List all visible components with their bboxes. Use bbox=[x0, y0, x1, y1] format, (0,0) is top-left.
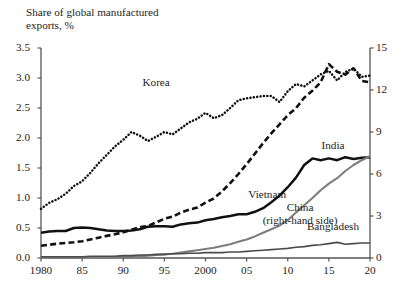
y-tick-label-right: 6 bbox=[376, 167, 402, 179]
x-tick-label: 90 bbox=[103, 264, 143, 276]
y-tick-label-right: 15 bbox=[376, 41, 402, 53]
y-tick-label-right: 3 bbox=[376, 209, 402, 221]
y-tick-label-left: 0.5 bbox=[0, 221, 30, 233]
y-tick-label-left: 3.5 bbox=[0, 41, 30, 53]
chart-figure: Share of global manufactured exports, % … bbox=[0, 0, 409, 288]
y-tick-label-right: 9 bbox=[376, 125, 402, 137]
x-tick-label: 1980 bbox=[21, 264, 61, 276]
series-label-korea: Korea bbox=[133, 76, 179, 88]
series-label-vietnam: Vietnam bbox=[237, 188, 297, 200]
x-tick-label: 05 bbox=[227, 264, 267, 276]
series-label-bangladesh: Bangladesh bbox=[295, 220, 371, 232]
x-tick-label: 2000 bbox=[186, 264, 226, 276]
x-tick-label: 95 bbox=[144, 264, 184, 276]
y-tick-label-left: 0.0 bbox=[0, 251, 30, 263]
x-tick-label: 20 bbox=[350, 264, 390, 276]
series-label-india: India bbox=[312, 139, 354, 151]
y-tick-label-left: 2.0 bbox=[0, 131, 30, 143]
x-tick-label: 85 bbox=[62, 264, 102, 276]
y-tick-label-right: 0 bbox=[376, 251, 402, 263]
y-tick-label-left: 1.0 bbox=[0, 191, 30, 203]
x-tick-label: 10 bbox=[268, 264, 308, 276]
y-tick-label-right: 12 bbox=[376, 83, 402, 95]
y-tick-label-left: 2.5 bbox=[0, 101, 30, 113]
y-tick-label-left: 3.0 bbox=[0, 71, 30, 83]
x-tick-label: 15 bbox=[309, 264, 349, 276]
y-tick-label-left: 1.5 bbox=[0, 161, 30, 173]
